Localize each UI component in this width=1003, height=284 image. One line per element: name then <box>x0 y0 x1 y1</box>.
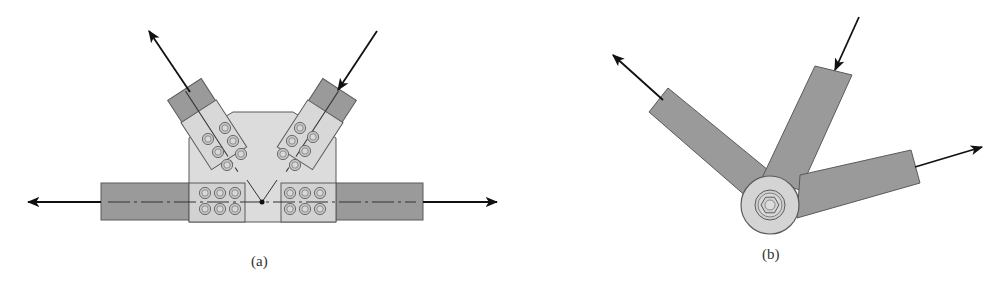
panel-a-label: (a) <box>251 253 268 270</box>
member-right <box>797 150 920 218</box>
panel-b-label: (b) <box>762 246 780 263</box>
force-arrow-member-left <box>613 55 663 100</box>
working-point <box>260 200 265 205</box>
force-arrow-diagonal-left <box>149 31 190 92</box>
force-arrow-diagonal-right <box>338 31 377 90</box>
panel-a-gusset-joint <box>28 31 497 222</box>
panel-b-pin-joint <box>613 17 982 234</box>
truss-joint-figure <box>0 0 1003 284</box>
member-left <box>649 88 768 198</box>
pin-connection <box>741 176 799 234</box>
force-arrow-member-middle <box>835 17 859 70</box>
force-arrow-member-right <box>915 147 982 167</box>
